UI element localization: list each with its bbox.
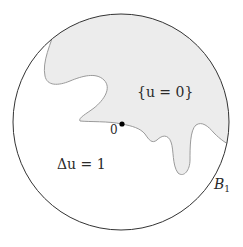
ball-label-subscript: 1 — [224, 184, 230, 194]
diagram-canvas: {u = 0} 0 Δu = 1 B1 — [0, 0, 243, 247]
diagram-svg — [0, 0, 243, 247]
origin-label-text: 0 — [110, 123, 118, 137]
zero-set-label: {u = 0} — [137, 85, 193, 99]
equation-label: Δu = 1 — [57, 157, 106, 171]
equation-label-text: Δu = 1 — [57, 156, 106, 172]
zero-set-label-text: {u = 0} — [137, 84, 193, 100]
origin-dot — [119, 121, 124, 126]
origin-label: 0 — [110, 124, 118, 136]
ball-label: B1 — [214, 177, 230, 194]
ball-label-main: B — [214, 176, 224, 192]
